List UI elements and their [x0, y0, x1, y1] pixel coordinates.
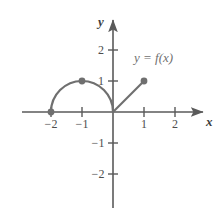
- point-minus2-0: [48, 109, 55, 116]
- y-axis-label: y: [98, 15, 104, 28]
- function-label: y = f(x): [134, 51, 173, 64]
- plot-canvas: [0, 0, 224, 215]
- y-tick-label--2: −2: [88, 168, 108, 180]
- x-axis-label: x: [206, 115, 213, 128]
- line-segment-curve: [113, 81, 144, 112]
- x-tick-label--1: −1: [72, 118, 92, 130]
- function-graph-figure: y x −2 −1 1 2 2 1 −1 −2 y = f(x): [0, 0, 224, 215]
- y-tick-label-1: 1: [94, 75, 108, 87]
- y-tick-label--1: −1: [88, 137, 108, 149]
- y-tick-label-2: 2: [94, 44, 108, 56]
- x-tick-label-1: 1: [137, 118, 151, 130]
- x-tick-label--2: −2: [41, 118, 61, 130]
- x-tick-label-2: 2: [168, 118, 182, 130]
- point-minus1-1: [79, 78, 86, 85]
- point-1-1: [141, 78, 148, 85]
